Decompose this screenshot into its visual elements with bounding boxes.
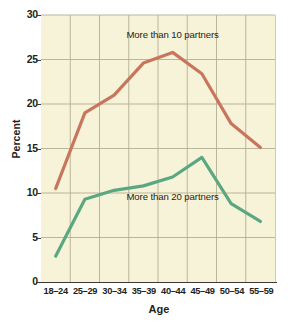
y-tick-mark xyxy=(36,149,41,150)
x-axis-ticks: 18–2425–2930–3435–3940–4445–4950–5455–59 xyxy=(41,286,277,302)
x-tick-label: 25–29 xyxy=(73,286,97,296)
x-axis-line xyxy=(41,282,277,283)
x-axis-title: Age xyxy=(41,303,277,315)
y-tick-label: 0 xyxy=(4,275,38,287)
x-tick-label: 30–34 xyxy=(102,286,126,296)
y-tick-mark xyxy=(36,15,41,16)
y-tick-mark xyxy=(36,193,41,194)
series-line-core-0 xyxy=(56,52,261,188)
x-tick-label: 45–49 xyxy=(190,286,214,296)
chart-series-lines xyxy=(41,15,275,282)
y-axis-title: Percent xyxy=(10,104,22,174)
x-tick-label: 40–44 xyxy=(161,286,185,296)
series-line-core-1 xyxy=(56,157,261,256)
x-tick-label: 50–54 xyxy=(220,286,244,296)
y-tick-mark xyxy=(36,238,41,239)
x-tick-label: 55–59 xyxy=(249,286,273,296)
x-tick-label: 35–39 xyxy=(132,286,156,296)
series-annotation-more-than-10-partners: More than 10 partners xyxy=(126,29,218,40)
series-line-band-1 xyxy=(56,157,261,256)
y-tick-label: 10 xyxy=(4,186,38,198)
series-annotation-more-than-20-partners: More than 20 partners xyxy=(126,191,218,202)
plot-area: More than 10 partners More than 20 partn… xyxy=(41,15,276,282)
y-tick-label: 30 xyxy=(4,8,38,20)
x-tick-label: 18–24 xyxy=(44,286,68,296)
y-tick-mark xyxy=(36,60,41,61)
y-tick-label: 5 xyxy=(4,231,38,243)
y-tick-mark xyxy=(36,104,41,105)
line-chart-figure: More than 10 partners More than 20 partn… xyxy=(0,0,296,327)
y-tick-label: 25 xyxy=(4,53,38,65)
